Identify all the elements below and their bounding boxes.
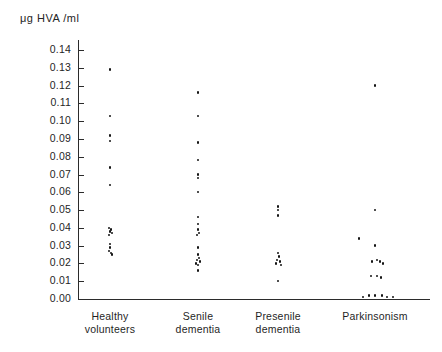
y-axis-tick: 0.00 [78,299,84,300]
x-axis-category-label-line: Parkinsonism [342,310,407,323]
y-axis-line [78,40,79,300]
y-axis-tick-mark [79,263,84,264]
data-point [197,223,199,225]
y-axis-tick-mark [79,192,84,193]
y-axis-tick: 0.08 [78,157,84,158]
data-point [111,253,113,255]
data-point [374,294,376,296]
y-axis-tick-label: 0.11 [51,96,71,108]
y-axis-tick: 0.09 [78,139,84,140]
data-point [277,214,279,216]
data-point [109,115,111,117]
data-point [277,205,279,207]
chart-figure: μg HVA /ml 0.140.130.120.110.100.090.080… [0,0,442,352]
y-axis-tick: 0.14 [78,50,84,51]
y-axis-tick-label: 0.10 [50,114,71,126]
data-point [197,216,199,218]
y-axis-tick-mark [79,299,84,300]
data-point [199,260,201,262]
data-point [197,191,199,193]
y-axis-tick-mark [79,175,84,176]
data-point [277,252,279,254]
y-axis-tick-mark [79,246,84,247]
data-point [196,259,198,261]
data-point [197,173,199,175]
y-axis-tick-label: 0.00 [50,292,71,304]
data-point [197,177,199,179]
data-point [109,246,111,248]
data-point [197,246,199,248]
data-point [109,184,111,186]
data-point [277,209,279,211]
y-axis-tick-mark [79,281,84,282]
y-axis-tick: 0.04 [78,228,84,229]
y-axis-tick-label: 0.13 [50,61,71,73]
y-axis-tick: 0.10 [78,121,84,122]
y-axis-unit-caption: μg HVA /ml [20,12,79,24]
data-point [108,234,110,236]
data-point [198,257,200,259]
y-axis-tick-mark [79,103,84,104]
data-point [276,259,278,261]
y-axis-tick-mark [79,210,84,211]
data-point [109,140,111,142]
y-axis-tick-label: 0.01 [50,274,71,286]
y-axis-tick-label: 0.09 [50,132,71,144]
y-axis-tick-label: 0.08 [50,150,71,162]
y-axis-tick-label: 0.03 [50,239,71,251]
data-point [376,259,378,261]
y-axis-tick-mark [79,228,84,229]
y-axis-tick: 0.03 [78,246,84,247]
data-point [379,260,381,262]
data-point [374,209,376,211]
x-axis-category-label-line: dementia [176,323,221,336]
y-axis-tick: 0.06 [78,192,84,193]
y-axis-tick-label: 0.02 [50,256,71,268]
x-axis-category-label-line: Presenile [255,310,301,323]
data-point [380,276,382,278]
y-axis-tick-mark [79,86,84,87]
data-point [109,68,111,70]
data-point [280,264,282,266]
data-point [111,232,113,234]
y-axis-tick: 0.07 [78,175,84,176]
y-axis-tick: 0.02 [78,263,84,264]
plot-area: 0.140.130.120.110.100.090.080.070.060.05… [78,40,430,300]
data-point [197,115,199,117]
y-axis-tick-mark [79,139,84,140]
data-point [381,294,383,296]
y-axis-tick-label: 0.07 [50,168,71,180]
data-point [376,275,378,277]
y-axis-tick-label: 0.06 [50,185,71,197]
x-axis-category-label: Preseniledementia [255,310,301,336]
x-axis-category-label: Parkinsonism [342,310,407,323]
y-axis-tick: 0.05 [78,210,84,211]
data-point [358,237,360,239]
y-axis-tick-mark [79,121,84,122]
data-point [197,91,199,93]
data-point [275,262,277,264]
data-point [382,262,384,264]
data-point [198,232,200,234]
data-point [197,159,199,161]
x-axis-category-label-line: Healthy [85,310,135,323]
y-axis-tick-label: 0.04 [50,221,71,233]
x-axis-category-label: Healthyvolunteers [85,310,135,336]
y-axis-tick: 0.12 [78,86,84,87]
data-point [371,260,373,262]
data-point [109,166,111,168]
data-point [197,141,199,143]
data-point [278,255,280,257]
y-axis-tick-mark [79,68,84,69]
data-point [370,275,372,277]
data-point [277,280,279,282]
y-axis-tick-mark [79,50,84,51]
y-axis-tick: 0.01 [78,281,84,282]
data-point [109,243,111,245]
y-axis-tick: 0.13 [78,68,84,69]
x-axis-category-label-line: dementia [255,323,301,336]
y-axis-tick-mark [79,157,84,158]
data-point [197,228,199,230]
y-axis-tick-label: 0.14 [50,43,71,55]
x-axis-category-label: Seniledementia [176,310,221,336]
